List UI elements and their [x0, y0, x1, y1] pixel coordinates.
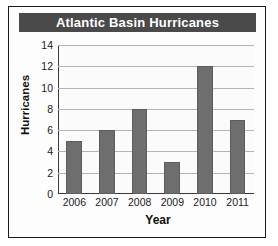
bar-2008	[132, 109, 148, 194]
y-tick-label: 4	[47, 145, 53, 157]
chart-title-band: Atlantic Basin Hurricanes	[19, 13, 256, 32]
bar-2006	[66, 141, 82, 194]
y-tick-label: 2	[47, 167, 53, 179]
bar-2011	[230, 120, 246, 195]
x-axis-title: Year	[58, 213, 258, 227]
x-tick-label: 2006	[63, 196, 86, 208]
y-tick-label: 0	[47, 188, 53, 200]
y-tick-label: 8	[47, 103, 53, 115]
bar-2007	[99, 130, 115, 194]
y-tick-label: 6	[47, 124, 53, 136]
gridline-0: 0	[58, 194, 254, 195]
chart-figure: Atlantic Basin Hurricanes Hurricanes 024…	[8, 6, 266, 238]
plot-background	[58, 45, 254, 194]
y-axis-title: Hurricanes	[19, 65, 31, 145]
bar-2010	[197, 66, 213, 194]
x-tick-label: 2008	[128, 196, 151, 208]
chart-title: Atlantic Basin Hurricanes	[56, 15, 219, 30]
gridline-12: 12	[58, 66, 254, 67]
y-tick-label: 14	[41, 39, 53, 51]
bar-2009	[164, 162, 180, 194]
gridline-6: 6	[58, 130, 254, 131]
gridline-4: 4	[58, 151, 254, 152]
y-tick-label: 10	[41, 82, 53, 94]
y-tick-label: 12	[41, 60, 53, 72]
gridline-14: 14	[58, 45, 254, 46]
gridline-8: 8	[58, 109, 254, 110]
gridline-10: 10	[58, 88, 254, 89]
gridline-2: 2	[58, 173, 254, 174]
x-tick-label: 2010	[193, 196, 216, 208]
x-tick-label: 2007	[95, 196, 118, 208]
x-tick-label: 2011	[226, 196, 249, 208]
plot-area: 02468101214 200620072008200920102011	[58, 45, 254, 194]
x-tick-label: 2009	[161, 196, 184, 208]
